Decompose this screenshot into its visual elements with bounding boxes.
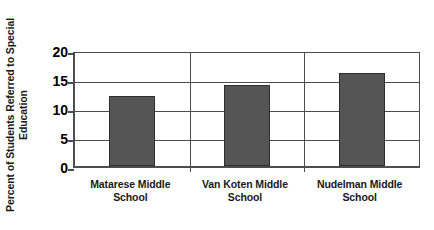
y-axis-tick-mark [68, 140, 74, 142]
y-axis-title-line-1: Percent of Students Referred to Special [4, 18, 17, 212]
x-axis-category-label: Matarese MiddleSchool [73, 178, 188, 204]
x-axis-category-label: Van Koten MiddleSchool [188, 178, 303, 204]
x-axis-tick-mark [190, 166, 191, 172]
y-axis-tick-label: 5 [60, 132, 68, 146]
y-axis-tick-mark [68, 111, 74, 113]
x-axis-tick-mark [304, 166, 305, 172]
bar [109, 96, 155, 166]
y-axis-tick-mark [68, 169, 74, 171]
y-axis-title-line-2: Education [17, 18, 30, 212]
x-axis-category-labels: Matarese MiddleSchoolVan Koten MiddleSch… [73, 178, 420, 218]
y-axis-title: Percent of Students Referred to Special … [0, 0, 34, 230]
x-axis-category-label-line: Nudelman Middle [302, 178, 417, 191]
bars-layer [75, 53, 419, 166]
bar [339, 73, 385, 166]
bar [224, 85, 270, 166]
y-axis-tick-label: 20 [52, 45, 68, 59]
x-axis-category-label-line: School [73, 191, 188, 204]
x-axis-category-label-line: Van Koten Middle [188, 178, 303, 191]
bar-chart-figure: Percent of Students Referred to Special … [0, 0, 434, 230]
y-axis-tick-mark [68, 82, 74, 84]
y-axis-tick-labels: 05101520 [34, 44, 68, 168]
y-axis-tick-label: 15 [52, 74, 68, 88]
x-axis-category-label-line: Matarese Middle [73, 178, 188, 191]
y-axis-tick-label: 10 [52, 103, 68, 117]
plot-area [73, 52, 420, 168]
x-axis-category-label-line: School [302, 191, 417, 204]
x-axis-category-label: Nudelman MiddleSchool [302, 178, 417, 204]
y-axis-tick-label: 0 [60, 161, 68, 175]
x-axis-category-label-line: School [188, 191, 303, 204]
y-axis-tick-mark [68, 53, 74, 55]
